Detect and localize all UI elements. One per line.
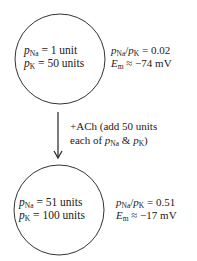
- e-symbol: E: [111, 57, 118, 69]
- before-pk-line: pK = 50 units: [24, 57, 84, 73]
- text: ): [144, 134, 148, 146]
- value: = 1 unit: [39, 44, 78, 56]
- before-em: Em ≈ −74 mV: [111, 57, 172, 73]
- text: &: [119, 134, 133, 146]
- value: = 51 units: [34, 196, 83, 208]
- subscript: Na: [110, 139, 119, 148]
- text: each of: [70, 134, 105, 146]
- value: = 100 units: [30, 209, 85, 221]
- value: = 0.51: [144, 196, 175, 208]
- transition-line-2: each of pNa & pK): [70, 134, 148, 150]
- value: ≈ −17 mV: [129, 209, 177, 221]
- after-pk-line: pK = 100 units: [19, 209, 85, 225]
- value: = 0.02: [139, 44, 170, 56]
- e-symbol: E: [116, 209, 123, 221]
- transition-line-1: +ACh (add 50 units: [70, 120, 157, 132]
- value: = 50 units: [35, 57, 84, 69]
- value: ≈ −74 mV: [124, 57, 172, 69]
- after-em: Em ≈ −17 mV: [116, 209, 177, 225]
